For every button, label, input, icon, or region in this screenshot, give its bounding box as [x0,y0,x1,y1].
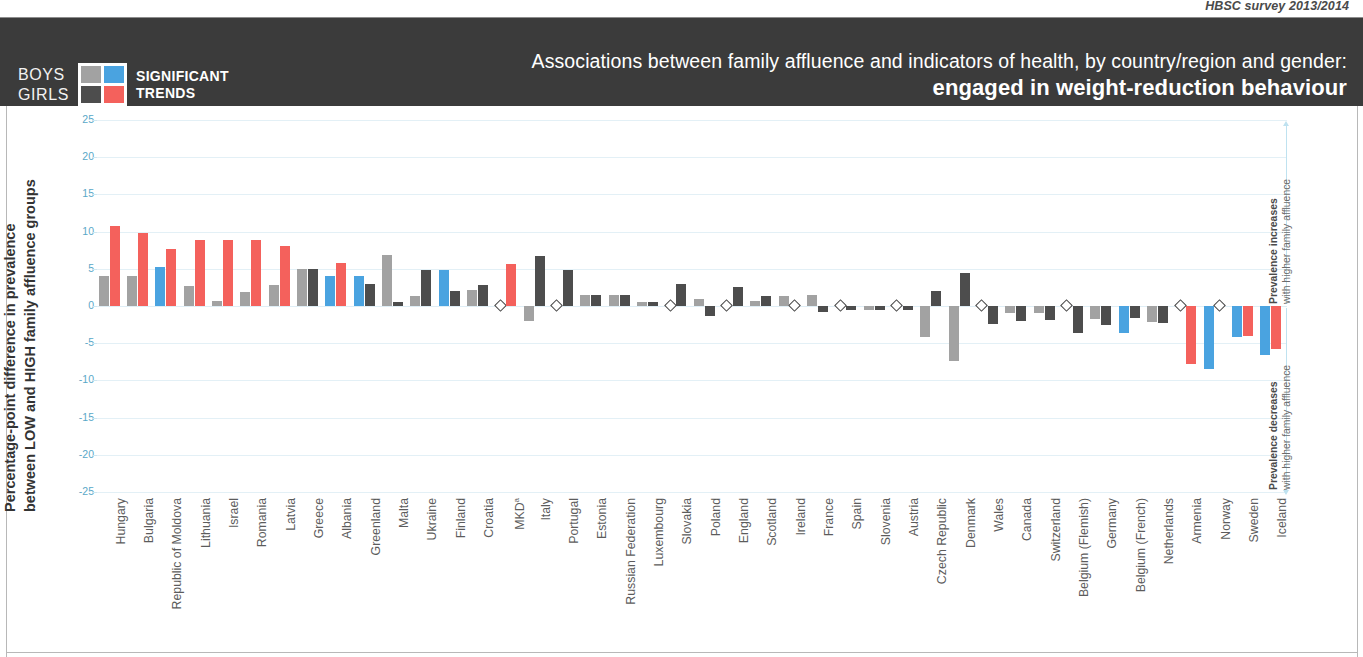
bar-girls[interactable] [393,302,403,306]
bar-group[interactable] [1232,120,1260,492]
bar-girls[interactable] [308,269,318,306]
bar-group[interactable] [779,120,807,492]
bar-group[interactable] [382,120,410,492]
bar-group[interactable] [864,120,892,492]
bar-girls[interactable] [903,306,913,310]
bar-girls[interactable] [761,296,771,306]
bar-girls[interactable] [280,246,290,306]
bar-girls[interactable] [110,226,120,306]
bar-group[interactable] [552,120,580,492]
bar-boys[interactable] [1204,306,1214,369]
bar-boys[interactable] [920,306,930,337]
bar-boys[interactable] [99,276,109,306]
bar-boys[interactable] [155,267,165,306]
bar-boys[interactable] [354,276,364,306]
bar-group[interactable] [410,120,438,492]
bar-boys[interactable] [1147,306,1157,322]
bar-group[interactable] [807,120,835,492]
bar-boys[interactable] [439,270,449,306]
bar-boys[interactable] [240,292,250,306]
bar-girls[interactable] [1158,306,1168,323]
bar-girls[interactable] [336,263,346,306]
bar-group[interactable] [694,120,722,492]
bar-girls[interactable] [251,240,261,306]
bar-group[interactable] [212,120,240,492]
bar-girls[interactable] [1016,306,1026,321]
bar-group[interactable] [325,120,353,492]
bar-boys[interactable] [637,302,647,306]
bar-group[interactable] [297,120,325,492]
bar-girls[interactable] [365,284,375,306]
bar-girls[interactable] [648,302,658,306]
bar-group[interactable] [949,120,977,492]
bar-girls[interactable] [1271,306,1281,349]
bar-girls[interactable] [988,306,998,324]
bar-boys[interactable] [127,276,137,306]
bar-group[interactable] [467,120,495,492]
bar-boys[interactable] [580,295,590,306]
bar-group[interactable] [637,120,665,492]
bar-girls[interactable] [818,306,828,312]
bar-group[interactable] [722,120,750,492]
bar-girls[interactable] [506,264,516,306]
bar-girls[interactable] [166,249,176,306]
bar-girls[interactable] [960,273,970,306]
bar-girls[interactable] [733,287,743,306]
bar-boys[interactable] [269,285,279,306]
bar-girls[interactable] [1130,306,1140,318]
bar-boys[interactable] [779,296,789,306]
bar-girls[interactable] [1101,306,1111,325]
bar-boys[interactable] [807,295,817,306]
bar-girls[interactable] [676,284,686,306]
bar-girls[interactable] [535,256,545,306]
bar-group[interactable] [580,120,608,492]
bar-group[interactable] [892,120,920,492]
bar-girls[interactable] [138,233,148,306]
bar-girls[interactable] [1073,306,1083,333]
bar-boys[interactable] [1260,306,1270,355]
bar-boys[interactable] [1119,306,1129,333]
bar-girls[interactable] [875,306,885,310]
bar-boys[interactable] [1005,306,1015,313]
bar-boys[interactable] [184,286,194,306]
bar-girls[interactable] [563,270,573,306]
bar-boys[interactable] [609,295,619,306]
bar-group[interactable] [1147,120,1175,492]
bar-group[interactable] [609,120,637,492]
bar-girls[interactable] [223,240,233,306]
bar-group[interactable] [1204,120,1232,492]
bar-group[interactable] [1090,120,1118,492]
bar-group[interactable] [1062,120,1090,492]
bar-group[interactable] [920,120,948,492]
bar-boys[interactable] [467,290,477,306]
bar-boys[interactable] [297,269,307,306]
bar-group[interactable] [665,120,693,492]
bar-boys[interactable] [1034,306,1044,313]
bar-group[interactable] [269,120,297,492]
bar-group[interactable] [1119,120,1147,492]
bar-group[interactable] [750,120,778,492]
bar-boys[interactable] [410,296,420,306]
bar-group[interactable] [439,120,467,492]
bar-boys[interactable] [212,301,222,306]
bar-girls[interactable] [1045,306,1055,320]
bar-boys[interactable] [1232,306,1242,337]
bar-group[interactable] [495,120,523,492]
bar-group[interactable] [127,120,155,492]
bar-girls[interactable] [620,295,630,306]
bar-group[interactable] [354,120,382,492]
bar-boys[interactable] [524,306,534,321]
bar-girls[interactable] [195,240,205,306]
bar-boys[interactable] [325,276,335,306]
bar-group[interactable] [524,120,552,492]
bar-group[interactable] [184,120,212,492]
bar-girls[interactable] [450,291,460,306]
bar-girls[interactable] [1243,306,1253,336]
bar-girls[interactable] [846,306,856,310]
bar-girls[interactable] [421,270,431,306]
bar-girls[interactable] [931,291,941,306]
bar-boys[interactable] [382,255,392,306]
bar-group[interactable] [155,120,183,492]
bar-boys[interactable] [949,306,959,361]
bar-girls[interactable] [591,295,601,306]
